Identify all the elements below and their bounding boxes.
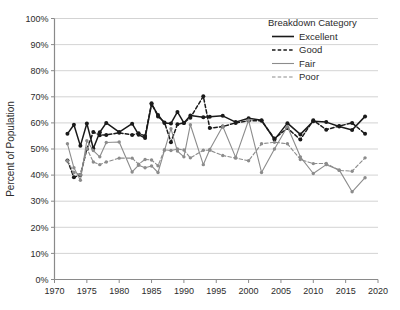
y-tick-label: 80% [30, 66, 48, 76]
data-point [299, 158, 302, 161]
data-point [150, 164, 153, 167]
data-point [234, 156, 237, 159]
data-point [298, 138, 302, 142]
data-point [260, 171, 263, 174]
series-good [65, 94, 367, 179]
data-point [285, 121, 289, 125]
data-point [324, 128, 328, 132]
data-point [118, 156, 121, 159]
x-tick-label: 1990 [174, 286, 194, 296]
data-point [201, 115, 205, 119]
data-point [221, 125, 224, 128]
data-point [169, 140, 173, 144]
data-point [143, 166, 146, 169]
data-point [189, 156, 192, 159]
legend-label-good: Good [299, 44, 322, 55]
data-point [163, 148, 166, 151]
data-point [66, 142, 69, 145]
data-point [104, 133, 108, 137]
y-axis-title-text: Percent of Population [5, 101, 16, 197]
legend-title: Breakdown Category [268, 17, 357, 28]
y-tick-label: 30% [30, 196, 48, 206]
data-point [162, 120, 166, 124]
y-tick-label: 50% [30, 144, 48, 154]
data-point [363, 176, 366, 179]
data-point [312, 172, 315, 175]
x-tick-label: 1970 [44, 286, 64, 296]
x-tick-label: 2000 [239, 286, 259, 296]
data-point [273, 141, 276, 144]
data-point [286, 125, 289, 128]
legend-label-fair: Fair [299, 58, 315, 69]
data-point [221, 154, 224, 157]
data-point [350, 169, 353, 172]
series-line-poor [67, 142, 365, 174]
data-point [312, 162, 315, 165]
data-point [169, 127, 172, 130]
data-point [78, 144, 82, 148]
series-line-fair [67, 120, 365, 192]
y-tick-label: 100% [25, 14, 48, 24]
x-axis-ticks: 1970197519801985199019952000200520102015… [44, 280, 388, 296]
data-point [169, 121, 173, 125]
data-point [91, 130, 95, 134]
data-point [98, 163, 101, 166]
y-tick-label: 40% [30, 170, 48, 180]
y-axis-ticks: 0%10%20%30%40%50%60%70%80%90%100% [25, 14, 54, 285]
data-point [98, 133, 102, 137]
data-point [260, 119, 264, 123]
x-tick-label: 2010 [303, 286, 323, 296]
data-point [208, 149, 211, 152]
data-point [273, 147, 276, 150]
x-tick-label: 2015 [336, 286, 356, 296]
data-point [363, 132, 367, 136]
data-point [247, 119, 250, 122]
data-point [324, 120, 328, 124]
y-tick-label: 70% [30, 92, 48, 102]
series-line-good [67, 96, 365, 177]
data-point [202, 149, 205, 152]
data-point [221, 114, 225, 118]
data-point [363, 156, 366, 159]
x-tick-label: 1985 [142, 286, 162, 296]
data-point [189, 123, 192, 126]
data-point [79, 179, 82, 182]
data-point [350, 121, 354, 125]
data-point [130, 133, 134, 137]
data-point [260, 142, 263, 145]
data-point [156, 171, 159, 174]
data-point [66, 159, 69, 162]
data-point [72, 166, 75, 169]
data-point [92, 149, 95, 152]
data-point [156, 114, 160, 118]
data-point [143, 134, 147, 138]
series-fair [66, 119, 367, 194]
data-point [350, 128, 354, 132]
data-point [201, 94, 205, 98]
data-point [202, 163, 205, 166]
data-point [286, 142, 289, 145]
data-point [137, 131, 141, 135]
x-tick-label: 1975 [77, 286, 97, 296]
data-point [337, 124, 341, 128]
x-tick-label: 2020 [368, 286, 388, 296]
data-point [182, 155, 185, 158]
series-poor [66, 141, 367, 177]
data-point [130, 122, 134, 126]
line-chart: 0%10%20%30%40%50%60%70%80%90%100% 197019… [0, 0, 400, 310]
data-point [92, 160, 95, 163]
data-point [143, 158, 146, 161]
data-point [175, 122, 179, 126]
chart-container: 0%10%20%30%40%50%60%70%80%90%100% 197019… [0, 0, 400, 310]
data-point [188, 116, 192, 120]
data-point [311, 118, 315, 122]
data-point [272, 137, 276, 141]
y-tick-label: 10% [30, 249, 48, 259]
data-point [72, 123, 76, 127]
data-point [182, 148, 185, 151]
data-point [150, 101, 154, 105]
data-point [105, 160, 108, 163]
data-point [72, 175, 76, 179]
legend-label-excellent: Excellent [299, 31, 338, 42]
data-point [137, 162, 140, 165]
